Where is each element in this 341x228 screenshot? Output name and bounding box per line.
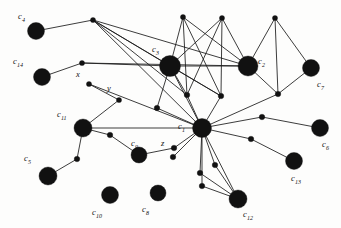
graph-node-minor-n10[interactable]	[275, 91, 281, 97]
graph-edge	[275, 18, 311, 68]
node-label-c3: c3	[152, 45, 159, 56]
graph-node-minor-n11[interactable]	[154, 105, 160, 111]
graph-node-minor-n4[interactable]	[272, 15, 277, 20]
node-label-c7: c7	[317, 80, 324, 91]
graph-node-c7[interactable]	[303, 60, 320, 77]
graph-edge	[36, 20, 93, 31]
node-label-z: z	[161, 139, 164, 148]
graph-edge	[183, 17, 187, 95]
graph-node-minor-n3[interactable]	[219, 15, 224, 20]
graph-node-c8[interactable]	[150, 185, 166, 201]
node-label-c2: c2	[258, 57, 265, 68]
graph-edge	[262, 117, 320, 128]
edges-layer	[36, 17, 320, 199]
graph-node-minor-n5[interactable]	[79, 60, 84, 65]
graph-node-minor-n2[interactable]	[180, 14, 185, 19]
graph-edge	[275, 18, 278, 94]
graph-node-c4[interactable]	[28, 23, 45, 40]
graph-node-minor-n13[interactable]	[107, 132, 113, 138]
graph-edge	[221, 18, 222, 96]
node-label-c1: c1	[178, 122, 185, 133]
graph-edge	[89, 84, 119, 100]
graph-node-c6[interactable]	[312, 120, 329, 137]
node-label-y: y	[107, 84, 111, 93]
graph-edge	[89, 84, 202, 128]
node-label-x: x	[76, 70, 80, 79]
major-nodes-layer	[28, 23, 329, 209]
graph-node-minor-n8[interactable]	[184, 92, 190, 98]
graph-node-minor-n17[interactable]	[170, 154, 176, 160]
graph-node-minor-n12[interactable]	[259, 114, 265, 120]
graph-node-minor-x[interactable]	[86, 81, 91, 86]
graph-node-minor-z[interactable]	[171, 145, 177, 151]
graph-node-minor-n9[interactable]	[218, 93, 224, 99]
graph-node-minor-n16[interactable]	[74, 156, 80, 162]
node-label-c6: c6	[322, 140, 329, 151]
graph-canvas	[0, 0, 341, 228]
graph-node-c14[interactable]	[34, 69, 51, 86]
node-label-c14: c14	[13, 57, 23, 68]
node-label-c8: c8	[142, 205, 149, 216]
node-label-c11: c11	[57, 110, 67, 121]
graph-node-c1[interactable]	[193, 119, 212, 138]
graph-node-c3[interactable]	[160, 56, 181, 77]
node-label-c4: c4	[18, 12, 25, 23]
graph-node-minor-n20[interactable]	[199, 183, 205, 189]
minor-nodes-layer	[74, 14, 281, 188]
graph-figure: xyzc4c14c3c2c7c11c1c9c6c5c13c12c10c8	[0, 0, 341, 228]
graph-node-minor-n14[interactable]	[248, 136, 254, 142]
graph-edge	[202, 94, 278, 128]
graph-node-minor-n1[interactable]	[90, 17, 95, 22]
graph-node-c5[interactable]	[39, 167, 57, 185]
graph-node-c12[interactable]	[229, 190, 247, 208]
graph-node-c11[interactable]	[74, 119, 92, 137]
graph-node-c10[interactable]	[102, 187, 119, 204]
graph-node-minor-n18[interactable]	[212, 162, 218, 168]
graph-node-c13[interactable]	[286, 153, 303, 170]
node-label-c12: c12	[243, 210, 253, 221]
node-label-c5: c5	[24, 154, 31, 165]
node-label-c9: c9	[131, 139, 138, 150]
graph-node-minor-n19[interactable]	[197, 170, 203, 176]
graph-node-c2[interactable]	[238, 56, 258, 76]
node-label-c13: c13	[291, 174, 301, 185]
node-label-c10: c10	[92, 208, 102, 219]
graph-node-minor-y[interactable]	[116, 97, 121, 102]
